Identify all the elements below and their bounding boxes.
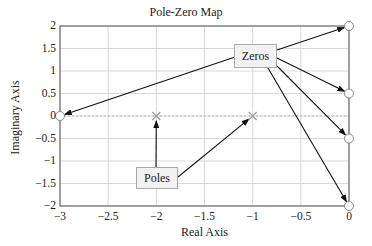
y-tick-label: −1 [20,154,56,166]
y-tick-label: 2 [20,19,56,31]
x-tick-label: −2.5 [88,210,128,222]
zero-marker-icon [345,134,354,143]
x-axis-label: Real Axis [60,225,349,240]
x-tick-label: −0.5 [281,210,321,222]
zero-marker-icon [345,22,354,31]
y-tick-label: 0.5 [20,87,56,99]
x-tick-label: −1 [233,210,273,222]
zeros-annotation: Zeros [234,44,277,68]
annotation-arrow [65,57,235,114]
annotation-arrow [277,58,345,91]
zero-marker-icon [56,112,65,121]
annotation-arrow [277,28,344,50]
poles-annotation: Poles [136,167,178,189]
x-tick-label: −1.5 [185,210,225,222]
annotation-arrow [178,119,249,177]
y-tick-label: 0 [20,109,56,121]
x-tick-label: −3 [40,210,80,222]
y-tick-label: 1 [20,64,56,76]
annotation-arrows [65,28,347,202]
y-tick-label: −1.5 [20,177,56,189]
y-tick-label: −0.5 [20,132,56,144]
y-tick-label: −2 [20,199,56,211]
x-tick-label: −2 [136,210,176,222]
zero-marker-icon [345,89,354,98]
annotation-arrow [268,68,346,202]
x-tick-label: 0 [329,210,369,222]
y-tick-label: 1.5 [20,42,56,54]
chart-title: Pole-Zero Map [0,5,372,20]
